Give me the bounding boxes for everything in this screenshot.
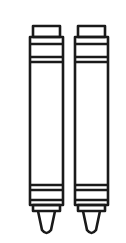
left-crayon — [30, 26, 63, 233]
illustration — [0, 0, 126, 243]
right-crayon — [75, 26, 108, 233]
crayons-drawing — [0, 0, 126, 243]
